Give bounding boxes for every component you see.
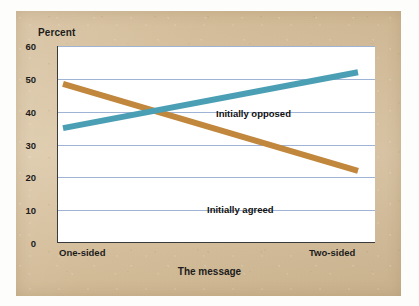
y-tick-label: 50 [16,73,36,84]
plot-area: Initially opposed Initially agreed [57,46,375,243]
x-tick-label-two-sided: Two-sided [309,247,355,258]
y-tick-label: 20 [16,172,36,183]
series-annotation-initially-agreed: Initially agreed [207,204,274,215]
y-tick-label: 30 [16,139,36,150]
y-tick-label: 0 [16,238,36,249]
x-tick-label-one-sided: One-sided [59,247,105,258]
series-line-initially-opposed [63,72,358,128]
figure-root: Percent 0 10 20 30 40 50 60 Initially op… [0,0,419,306]
x-axis-title: The message [0,266,419,277]
y-axis-title: Percent [38,27,75,38]
series-line-initially-agreed [63,84,358,171]
y-tick-label: 60 [16,41,36,52]
y-tick-label: 10 [16,205,36,216]
series-annotation-initially-opposed: Initially opposed [216,108,291,119]
y-tick-label: 40 [16,106,36,117]
